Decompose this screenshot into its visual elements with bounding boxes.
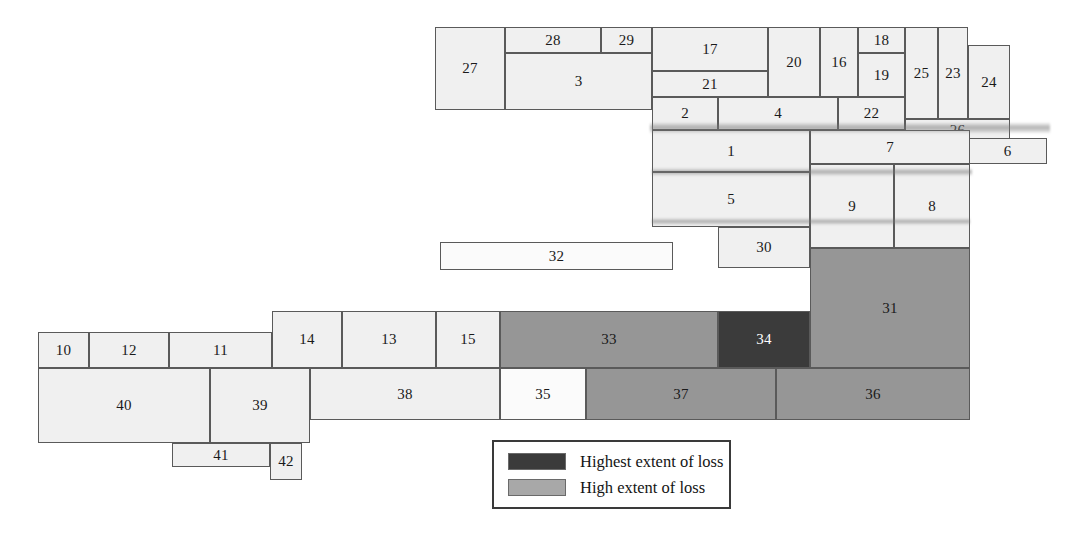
treemap-cell-label: 42 xyxy=(278,453,293,470)
treemap-cell-16: 16 xyxy=(820,27,858,97)
treemap-cell-label: 36 xyxy=(865,386,880,403)
treemap-cell-33: 33 xyxy=(500,311,718,368)
treemap-cell-label: 23 xyxy=(945,65,960,82)
treemap-cell-label: 31 xyxy=(882,300,897,317)
treemap-cell-label: 2 xyxy=(681,105,689,122)
treemap-cell-label: 35 xyxy=(535,386,550,403)
treemap-cell-label: 14 xyxy=(299,331,314,348)
treemap-cell-label: 30 xyxy=(756,239,771,256)
treemap-cell-7: 7 xyxy=(810,130,970,164)
treemap-cell-40: 40 xyxy=(38,368,210,443)
treemap-cell-18: 18 xyxy=(858,27,905,53)
legend-item-highest: Highest extent of loss xyxy=(508,452,715,472)
treemap-cell-label: 1 xyxy=(727,143,735,160)
treemap-cell-label: 38 xyxy=(397,386,412,403)
treemap-cell-label: 11 xyxy=(213,342,228,359)
treemap-cell-label: 32 xyxy=(549,248,564,265)
treemap-cell-label: 16 xyxy=(831,54,846,71)
legend-swatch-highest xyxy=(508,453,566,470)
treemap-cell-9: 9 xyxy=(810,164,894,248)
treemap-cell-label: 5 xyxy=(727,191,735,208)
treemap-cell-42: 42 xyxy=(270,443,302,480)
legend-label-high: High extent of loss xyxy=(580,478,705,498)
treemap-cell-39: 39 xyxy=(210,368,310,443)
treemap-cell-label: 9 xyxy=(848,198,856,215)
treemap-cell-label: 4 xyxy=(774,105,782,122)
treemap-cell-label: 10 xyxy=(56,342,71,359)
treemap-cell-label: 17 xyxy=(702,41,717,58)
treemap-cell-13: 13 xyxy=(342,311,436,368)
treemap-cell-1: 1 xyxy=(652,130,810,172)
treemap-cell-28: 28 xyxy=(505,27,601,53)
treemap-cell-3: 3 xyxy=(505,53,652,110)
treemap-cell-21: 21 xyxy=(652,71,768,97)
treemap-cell-20: 20 xyxy=(768,27,820,97)
treemap-cell-29: 29 xyxy=(601,27,652,53)
treemap-cell-label: 18 xyxy=(874,32,889,49)
treemap-cell-label: 29 xyxy=(619,32,634,49)
treemap-cell-14: 14 xyxy=(272,311,342,368)
treemap-cell-label: 20 xyxy=(786,54,801,71)
treemap-cell-label: 39 xyxy=(252,397,267,414)
treemap-cell-24: 24 xyxy=(968,45,1010,119)
legend-box: Highest extent of loss High extent of lo… xyxy=(492,440,731,509)
treemap-cell-11: 11 xyxy=(169,332,272,368)
treemap-cell-8: 8 xyxy=(894,164,970,248)
treemap-cell-label: 8 xyxy=(928,198,936,215)
legend-item-high: High extent of loss xyxy=(508,478,715,498)
treemap-cell-label: 33 xyxy=(601,331,616,348)
treemap-cell-12: 12 xyxy=(89,332,169,368)
treemap-cell-30: 30 xyxy=(718,227,810,268)
treemap-cell-5: 5 xyxy=(652,172,810,227)
treemap-cell-label: 6 xyxy=(1004,143,1012,160)
treemap-cell-25: 25 xyxy=(905,27,938,119)
treemap-cell-41: 41 xyxy=(172,443,270,467)
treemap-cell-label: 19 xyxy=(874,67,889,84)
treemap-cell-4: 4 xyxy=(718,97,838,130)
treemap-cell-35: 35 xyxy=(500,368,586,420)
treemap-cell-38: 38 xyxy=(310,368,500,420)
treemap-cell-label: 27 xyxy=(462,60,477,77)
treemap-cell-label: 21 xyxy=(702,76,717,93)
treemap-cell-34: 34 xyxy=(718,311,810,368)
treemap-figure: 2728293172120161819252324242226617598303… xyxy=(0,0,1085,539)
legend-swatch-high xyxy=(508,479,566,496)
treemap-cell-36: 36 xyxy=(776,368,970,420)
treemap-cell-label: 37 xyxy=(673,386,688,403)
treemap-cell-17: 17 xyxy=(652,27,768,71)
treemap-cell-label: 15 xyxy=(460,331,475,348)
treemap-cell-27: 27 xyxy=(435,27,505,110)
treemap-cell-label: 13 xyxy=(381,331,396,348)
treemap-cell-label: 24 xyxy=(981,74,996,91)
legend-label-highest: Highest extent of loss xyxy=(580,452,723,472)
treemap-cell-10: 10 xyxy=(38,332,89,368)
treemap-cell-label: 28 xyxy=(545,32,560,49)
treemap-cell-label: 3 xyxy=(575,73,583,90)
treemap-cell-label: 40 xyxy=(116,397,131,414)
treemap-cell-label: 25 xyxy=(914,65,929,82)
treemap-cell-37: 37 xyxy=(586,368,776,420)
treemap-cell-label: 41 xyxy=(213,447,228,464)
treemap-cell-label: 34 xyxy=(756,331,771,348)
treemap-cell-15: 15 xyxy=(436,311,500,368)
treemap-cell-22: 22 xyxy=(838,97,905,130)
treemap-cell-32: 32 xyxy=(440,242,673,270)
treemap-cell-23: 23 xyxy=(938,27,968,119)
treemap-cell-label: 7 xyxy=(886,139,894,156)
treemap-cell-label: 12 xyxy=(121,342,136,359)
treemap-cell-label: 22 xyxy=(864,105,879,122)
treemap-cell-6: 6 xyxy=(968,138,1047,164)
treemap-cell-2: 2 xyxy=(652,97,718,130)
treemap-cell-19: 19 xyxy=(858,53,905,97)
treemap-cell-31: 31 xyxy=(810,248,970,368)
